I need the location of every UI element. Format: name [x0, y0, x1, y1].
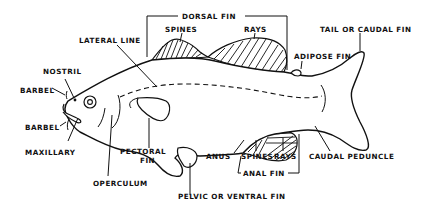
label-maxillary: MAXILLARY [25, 148, 76, 157]
label-dorsal-spines: SPINES [165, 25, 197, 34]
label-pelvic-ventral-fin: PELVIC OR VENTRAL FIN [178, 192, 286, 201]
label-pectoral-fin-1: PECTORAL [120, 147, 166, 156]
label-anal-rays: RAYS [274, 152, 297, 161]
label-lateral-line: LATERAL LINE [79, 36, 141, 45]
label-anal-spines: SPINES [241, 152, 273, 161]
label-barbel-lower: BARBEL [25, 123, 60, 132]
label-tail-caudal-fin: TAIL OR CAUDAL FIN [320, 25, 411, 34]
dorsal-fin-spiny [152, 39, 208, 60]
label-anal-fin: ANAL FIN [243, 169, 285, 178]
label-anus: ANUS [206, 152, 231, 161]
label-pectoral-fin-2: FIN [140, 156, 155, 165]
label-nostril: NOSTRIL [43, 67, 82, 76]
label-operculum: OPERCULUM [93, 179, 148, 188]
label-caudal-peduncle: CAUDAL PEDUNCLE [309, 152, 394, 161]
fish-anatomy-diagram: DORSAL FIN SPINES RAYS LATERAL LINE ADIP… [0, 0, 427, 215]
label-barbel-upper: BARBEL [20, 86, 55, 95]
label-adipose-fin: ADIPOSE FIN [294, 52, 351, 61]
label-dorsal-fin: DORSAL FIN [182, 12, 236, 21]
label-dorsal-rays: RAYS [244, 25, 267, 34]
